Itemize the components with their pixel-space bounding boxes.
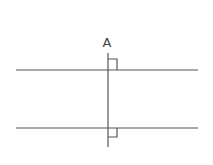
bottom-right-angle-icon bbox=[108, 128, 117, 137]
top-right-angle-icon bbox=[108, 59, 117, 70]
point-label-a: A bbox=[103, 35, 112, 50]
diagram-canvas: A bbox=[0, 0, 213, 165]
